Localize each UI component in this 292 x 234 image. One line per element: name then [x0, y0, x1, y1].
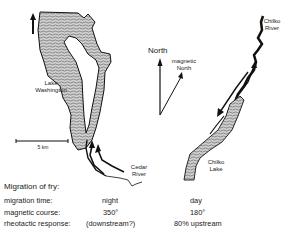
row-left-value: (downstream?) — [86, 219, 135, 228]
row-label: migration time: — [4, 196, 52, 205]
migration-table: migration time: night day magnetic cours… — [4, 196, 292, 230]
lake-washington-label: Lake Washington — [34, 80, 68, 94]
table-row: migration time: night day — [4, 196, 292, 208]
label-line: Washington — [34, 87, 68, 94]
magnetic-north-arrow-line — [160, 77, 181, 115]
label-line: magnetic — [168, 58, 200, 65]
row-left-value: 350° — [103, 208, 118, 217]
magnetic-north-arrowhead-icon — [178, 72, 183, 79]
magnetic-north-label: magnetic North — [168, 58, 200, 72]
row-label: magnetic course: — [4, 208, 60, 217]
label-line: Cedar — [128, 164, 150, 171]
table-row: rheotactic response: (downstream?) 80% u… — [4, 219, 292, 230]
arrowhead-icon — [217, 108, 224, 117]
chilko-lake-label: Chilko Lake — [204, 159, 228, 173]
cedar-river-label: Cedar River — [128, 164, 150, 178]
fry-path-2 — [98, 150, 124, 172]
row-right-value: 180° — [190, 208, 205, 217]
chilko-river-label: Chilko River — [260, 18, 284, 32]
label-line: Lake — [34, 80, 68, 87]
label-line: River — [260, 25, 284, 32]
label-line: Chilko — [260, 18, 284, 25]
arrowhead-icon — [95, 144, 101, 153]
label-line: Chilko — [204, 159, 228, 166]
caption: Migration of fry: — [4, 182, 59, 191]
row-right-value: day — [190, 196, 202, 205]
label-line: Lake — [204, 166, 228, 173]
label-line: River — [128, 171, 150, 178]
outflow-arrowhead-icon — [30, 13, 36, 20]
north-arrowhead-icon — [158, 58, 163, 66]
scale-label: 5 km — [26, 144, 60, 151]
fry-path-3 — [86, 140, 106, 176]
chilko-river-line — [228, 16, 263, 112]
table-row: magnetic course: 350° 180° — [4, 208, 292, 219]
label-line: North — [168, 65, 200, 72]
row-right-value: 80% upstream — [174, 219, 222, 228]
row-left-value: night — [102, 196, 118, 205]
row-label: rheotactic response: — [4, 219, 71, 228]
north-label: North — [148, 46, 168, 55]
